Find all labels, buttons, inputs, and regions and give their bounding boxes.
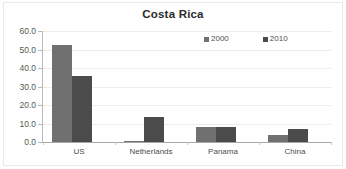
legend-entry-2000[interactable]: 2000 [204,35,229,43]
legend-swatch-icon [263,37,268,42]
bar-panama-2000 [196,127,216,142]
y-axis-tick-mark [38,124,42,125]
y-axis-tick-mark [38,142,42,143]
x-axis-tick-mark [187,142,188,145]
y-axis-tick-mark [38,50,42,51]
chart-figure: Costa Rica 60.050.040.030.020.010.00.0 2… [0,0,346,169]
x-axis-category-label: US [43,148,115,156]
chart-legend: 20002010 [204,35,288,43]
bar-china-2000 [268,135,288,142]
bar-group [268,31,308,142]
y-axis-tick-mark [38,105,42,106]
y-axis-tick-labels: 60.050.040.030.020.010.00.0 [0,0,36,169]
plot-area [43,31,331,142]
legend-swatch-icon [204,37,209,42]
bar-panama-2010 [216,127,236,142]
x-axis-category-label: Panama [187,148,259,156]
bar-china-2010 [288,129,308,142]
y-axis-tick-label: 20.0 [2,101,36,110]
legend-label: 2010 [270,35,288,43]
x-axis-tick-mark [331,142,332,145]
legend-label: 2000 [211,35,229,43]
bar-group [196,31,236,142]
y-axis-tick-label: 60.0 [2,27,36,36]
x-axis-category-label: China [259,148,331,156]
bar-netherlands-2010 [144,117,164,142]
legend-entry-2010[interactable]: 2010 [263,35,288,43]
bar-netherlands-2000 [124,141,144,142]
y-axis-tick-label: 50.0 [2,46,36,55]
y-axis-tick-label: 40.0 [2,64,36,73]
x-axis-tick-mark [43,142,44,145]
y-axis-tick-mark [38,31,42,32]
y-axis-tick-mark [38,68,42,69]
bar-group [52,31,92,142]
x-axis-category-label: Netherlands [115,148,187,156]
x-axis-tick-mark [115,142,116,145]
y-axis-tick-label: 30.0 [2,83,36,92]
x-axis-tick-mark [259,142,260,145]
bar-us-2010 [72,76,92,142]
bar-group [124,31,164,142]
bar-us-2000 [52,45,72,142]
y-axis-tick-label: 0.0 [2,138,36,147]
y-axis-tick-mark [38,87,42,88]
chart-title: Costa Rica [0,8,346,20]
y-axis-tick-label: 10.0 [2,120,36,129]
